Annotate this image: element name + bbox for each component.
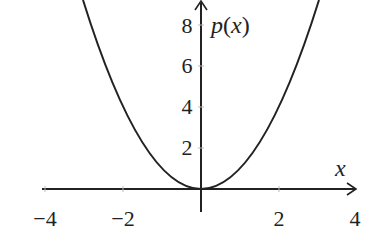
x-tick-label: −4 [33,206,56,231]
x-tick-label: 2 [274,206,285,231]
chart: −4 −2 2 4 2 4 6 8 x p(x) [0,0,373,247]
x-tick-label: −2 [111,206,134,231]
y-tick-label: 6 [182,53,193,78]
y-axis-label: p(x) [209,12,250,38]
x-axis-label: x [334,155,346,181]
y-tick-label: 4 [182,94,193,119]
x-tick-label: 4 [350,206,361,231]
y-tick-label: 8 [182,13,193,38]
y-tick-label: 2 [182,135,193,160]
